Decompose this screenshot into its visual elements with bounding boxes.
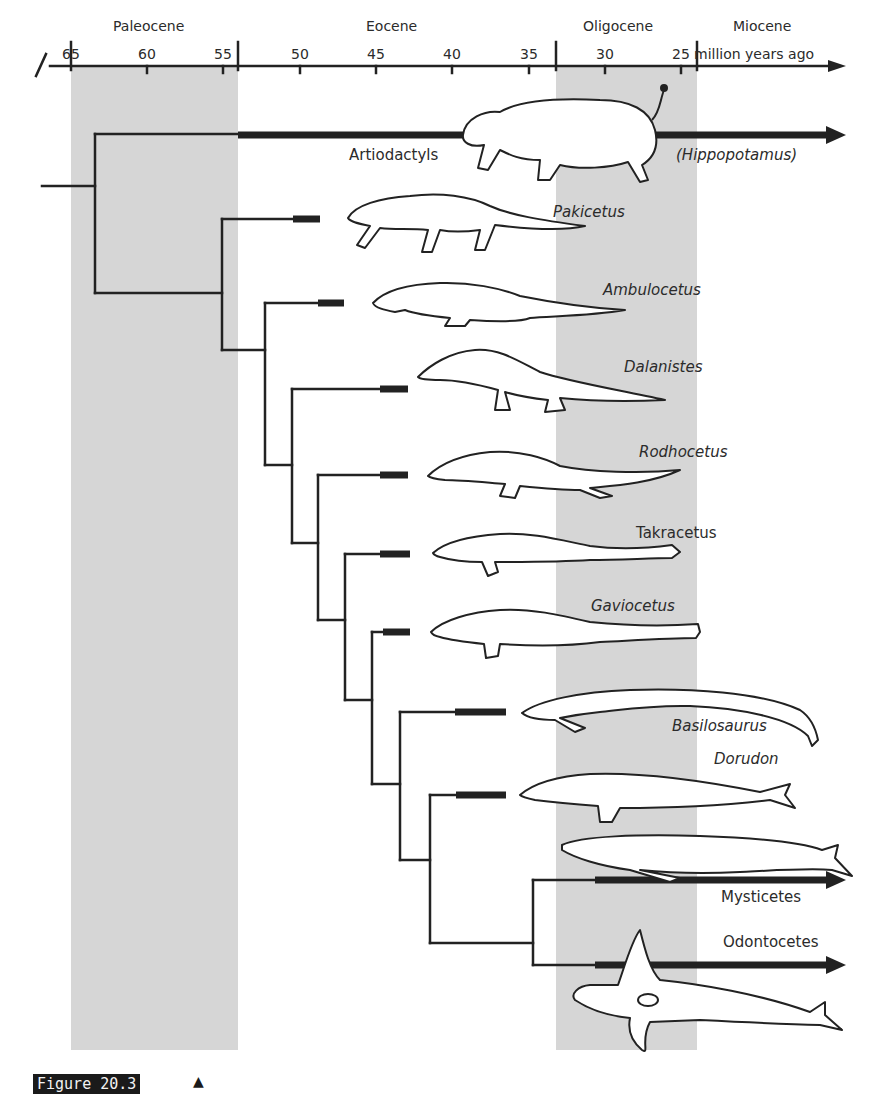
ambulocetus-icon	[373, 283, 625, 326]
taxon-label-mysticetes: Mysticetes	[721, 888, 801, 906]
taxon-label-hippopotamus: (Hippopotamus)	[676, 146, 797, 164]
figure-caption: Figure 20.3	[33, 1074, 140, 1094]
tick-label: 60	[138, 46, 156, 62]
artiodactyls-arrow-icon	[826, 126, 846, 144]
taxon-label-basilosaurus: Basilosaurus	[672, 717, 767, 735]
dorudon-icon	[520, 774, 795, 822]
taxon-label-dorudon: Dorudon	[714, 750, 779, 768]
epoch-label-miocene: Miocene	[733, 18, 791, 34]
taxon-label-ambulocetus: Ambulocetus	[603, 281, 701, 299]
triangle-up-icon[interactable]: ▲	[193, 1073, 204, 1089]
tick-label: 30	[596, 46, 614, 62]
axis-unit-label: million years ago	[694, 46, 814, 62]
pakicetus-icon	[348, 194, 585, 252]
odontocetes-arrow-icon	[826, 956, 846, 974]
mysticete-whale-icon	[562, 835, 852, 882]
tick-label: 35	[520, 46, 538, 62]
hippopotamus-icon	[463, 85, 667, 182]
tick-label: 65	[62, 46, 80, 62]
tick-label: 45	[367, 46, 385, 62]
taxon-label-takracetus: Takracetus	[636, 524, 717, 542]
epoch-label-eocene: Eocene	[366, 18, 417, 34]
taxon-label-pakicetus: Pakicetus	[553, 203, 625, 221]
taxon-label-gaviocetus: Gaviocetus	[591, 597, 675, 615]
epoch-label-paleocene: Paleocene	[113, 18, 184, 34]
tick-label: 50	[291, 46, 309, 62]
taxon-label-odontocetes: Odontocetes	[723, 933, 818, 951]
axis-break-icon	[36, 54, 46, 76]
gaviocetus-icon	[431, 610, 700, 658]
taxon-label-artiodactyls: Artiodactyls	[349, 146, 438, 164]
tick-label: 55	[214, 46, 232, 62]
basilosaurus-icon	[522, 690, 818, 746]
taxon-label-rodhocetus: Rodhocetus	[639, 443, 727, 461]
tick-label: 40	[443, 46, 461, 62]
axis-arrow-icon	[828, 60, 846, 72]
epoch-label-oligocene: Oligocene	[583, 18, 653, 34]
tick-label: 25	[672, 46, 690, 62]
taxon-label-dalanistes: Dalanistes	[624, 358, 703, 376]
